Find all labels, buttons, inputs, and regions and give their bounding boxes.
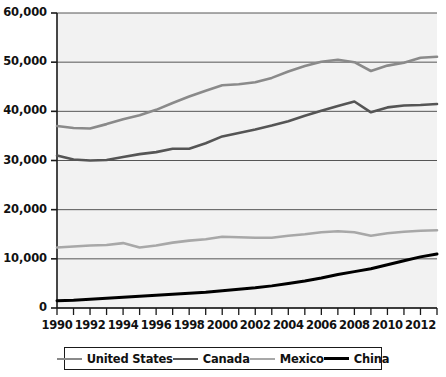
y-tick-label: 0: [0, 300, 47, 314]
y-tick-label: 60,000: [0, 5, 47, 19]
legend-item-china[interactable]: China: [324, 352, 390, 366]
y-tick-label: 50,000: [0, 54, 47, 68]
line-chart: 010,00020,00030,00040,00050,00060,000 19…: [0, 0, 446, 377]
legend-label: Mexico: [280, 352, 324, 366]
y-tick-label: 10,000: [0, 251, 47, 265]
legend-swatch-line-icon: [324, 357, 349, 360]
y-tick-label: 30,000: [0, 153, 47, 167]
legend-item-mexico[interactable]: Mexico: [250, 352, 324, 366]
legend-label: China: [354, 352, 390, 366]
legend-swatch-line-icon: [250, 358, 275, 360]
legend-label: Canada: [203, 352, 250, 366]
y-tick-label: 20,000: [0, 202, 47, 216]
legend-item-united-states[interactable]: United States: [57, 352, 173, 366]
legend-label: United States: [87, 352, 173, 366]
legend-item-canada[interactable]: Canada: [173, 352, 250, 366]
legend-swatch-line-icon: [57, 358, 82, 360]
x-tick-label: 2012: [398, 318, 442, 332]
chart-legend: United StatesCanadaMexicoChina: [64, 347, 382, 370]
y-tick-label: 40,000: [0, 103, 47, 117]
legend-swatch-line-icon: [173, 358, 198, 360]
